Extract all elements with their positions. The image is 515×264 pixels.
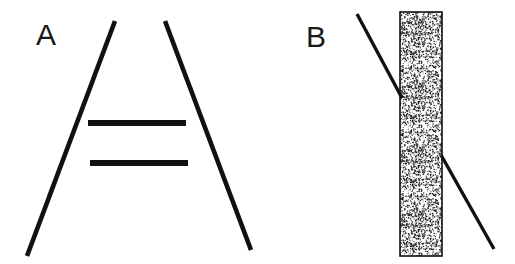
stippled-vertical-bar — [400, 12, 442, 256]
upper-diagonal-segment — [357, 14, 402, 98]
illusion-figure: A B — [0, 0, 515, 264]
panel-b: B — [260, 0, 515, 264]
panel-b-artwork — [260, 0, 515, 264]
left-converging-line — [27, 21, 115, 256]
panel-a-artwork — [0, 0, 260, 264]
right-converging-line — [165, 21, 251, 250]
lower-diagonal-segment — [441, 155, 494, 249]
panel-a: A — [0, 0, 260, 264]
